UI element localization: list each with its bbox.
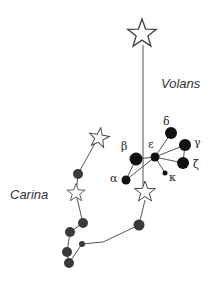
label-epsilon: ε [148,138,154,151]
star-outline-icon [135,181,156,201]
line-carina-e [82,225,139,244]
carina-star [64,258,74,268]
constellation-label-carina: Carina [10,187,48,202]
carina-star-small [79,241,85,247]
star-gamma [179,139,191,151]
label-zeta: ζ [193,158,199,171]
carina-star [134,220,145,231]
carina-star [62,247,72,257]
label-delta: δ [163,115,170,128]
star-kappa [163,171,168,176]
star-outline-icon [88,126,111,148]
star-beta [130,153,143,166]
star-outline-icon [67,184,85,201]
star-delta [165,127,177,139]
carina-stars [62,169,145,268]
constellation-label-volans: Volans [161,76,201,91]
label-alpha: α [110,172,118,185]
label-kappa: κ [169,171,176,184]
label-beta: β [121,140,127,153]
star-zeta [177,157,189,169]
carina-star [73,169,83,179]
star-alpha [122,176,131,185]
carina-star [65,227,75,237]
star-outline-icon [128,19,157,46]
label-gamma: γ [194,136,201,149]
star-chart: Volans Carina α β γ δ ε ζ κ [0,0,213,287]
carina-star [78,218,88,228]
star-epsilon [151,153,160,162]
